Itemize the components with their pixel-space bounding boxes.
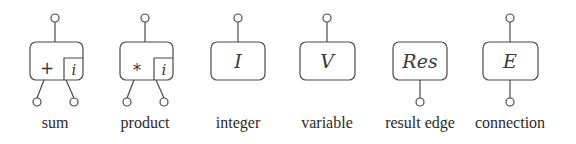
result-edge-node: Res result edge	[385, 42, 455, 132]
variable-node: V variable	[300, 14, 355, 131]
bottom-port-icon	[506, 98, 514, 106]
integer-node: I integer	[211, 14, 265, 132]
result-edge-label: result edge	[385, 114, 455, 132]
product-label: product	[121, 114, 170, 132]
product-index: i	[162, 61, 167, 79]
bottom-port-icon	[160, 98, 168, 106]
top-port-icon	[506, 14, 514, 22]
sum-index: i	[72, 61, 77, 79]
integer-symbol: I	[233, 50, 242, 72]
sum-label: sum	[42, 114, 69, 131]
connection-label: connection	[475, 114, 545, 131]
bottom-port-icon	[70, 98, 78, 106]
product-symbol: *	[133, 60, 142, 80]
bottom-port-icon	[416, 98, 424, 106]
connection-node: E connection	[475, 14, 545, 131]
node-legend-diagram: + i sum * i product I integer V variable	[0, 0, 576, 144]
sum-symbol: +	[40, 58, 54, 78]
variable-symbol: V	[320, 50, 336, 72]
top-port-icon	[51, 14, 59, 22]
top-port-icon	[234, 14, 242, 22]
product-node: * i product	[120, 14, 173, 132]
bottom-port-icon	[123, 98, 131, 106]
sum-node: + i sum	[30, 14, 83, 131]
bottom-port-icon	[33, 98, 41, 106]
variable-label: variable	[301, 114, 353, 131]
top-port-icon	[141, 14, 149, 22]
integer-label: integer	[216, 114, 261, 132]
connection-symbol: E	[502, 50, 517, 72]
result-edge-symbol: Res	[401, 50, 438, 72]
top-port-icon	[323, 14, 331, 22]
